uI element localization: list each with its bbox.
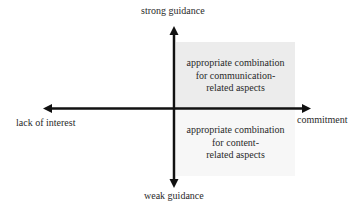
arrow-right-icon — [302, 104, 311, 113]
bottom-right-quadrant-text: appropriate combination for content- rel… — [176, 124, 295, 162]
axis-label-lack-of-interest: lack of interest — [16, 117, 75, 128]
quadrant-text-line: for content- — [176, 137, 295, 150]
axis-label-weak-guidance: weak guidance — [144, 190, 204, 201]
quadrant-text-line: appropriate combination — [176, 124, 295, 137]
quadrant-diagram: strong guidance weak guidance lack of in… — [0, 0, 362, 210]
arrow-up-icon — [170, 26, 179, 35]
quadrant-text-line: related aspects — [176, 149, 295, 162]
top-right-quadrant-text: appropriate combination for communicatio… — [176, 57, 295, 95]
quadrant-text-line: related aspects — [176, 82, 295, 95]
axes — [0, 0, 362, 210]
quadrant-text-line: for communication- — [176, 70, 295, 83]
arrow-down-icon — [170, 179, 179, 188]
axis-label-strong-guidance: strong guidance — [141, 5, 205, 16]
arrow-left-icon — [43, 104, 52, 113]
axis-label-commitment: commitment — [297, 114, 348, 125]
quadrant-text-line: appropriate combination — [176, 57, 295, 70]
